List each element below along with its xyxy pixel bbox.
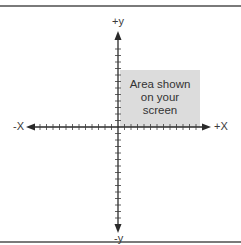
y-positive-arrow-icon [115,31,122,40]
y-positive-label: +y [112,16,124,27]
x-negative-arrow-icon [26,124,35,131]
x-positive-arrow-icon [202,124,211,131]
x-positive-label: +X [214,121,228,132]
screen-area-label-line-3: screen [120,104,200,117]
x-negative-label: -X [13,121,24,132]
screen-area-label-line-1: Area shown [120,78,200,91]
screen-area-label: Area shown on your screen [120,78,200,117]
coordinate-plane [0,0,241,245]
y-negative-label: -y [114,233,123,244]
screen-area-label-line-2: on your [120,91,200,104]
